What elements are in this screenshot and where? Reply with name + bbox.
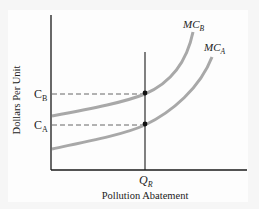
x-axis-title: Pollution Abatement (102, 190, 189, 201)
chart-svg: CB CA QR Pollution Abatement Dollars Per… (0, 0, 259, 209)
plot-background (8, 10, 248, 202)
cb-point (143, 91, 148, 96)
y-axis-title: Dollars Per Unit (11, 66, 22, 135)
chart-figure: CB CA QR Pollution Abatement Dollars Per… (0, 0, 259, 209)
ca-point (143, 122, 148, 127)
